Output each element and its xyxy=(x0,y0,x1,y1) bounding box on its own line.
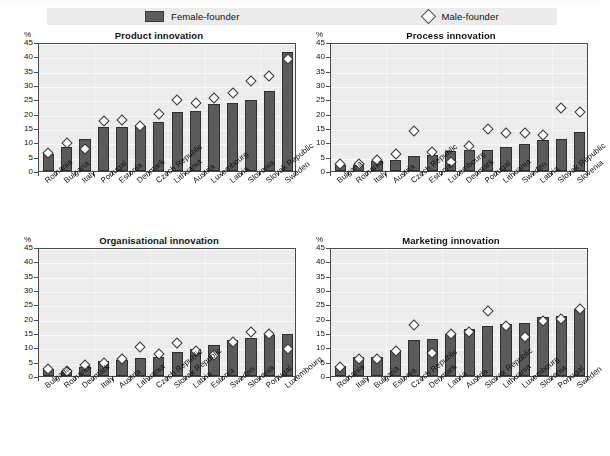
x-axis-labels: BulgariaRomaniaDenmarkItalyAustriaLithua… xyxy=(38,381,318,441)
y-tick-label: 5 xyxy=(29,359,33,367)
gridline-vertical xyxy=(94,44,95,171)
diamond-marker-slovak-republic xyxy=(482,306,493,317)
panel-title-process-innovation: Process innovation xyxy=(306,30,596,41)
gridline-vertical xyxy=(552,44,553,171)
gridline-vertical xyxy=(497,249,498,376)
y-axis: 051015202530354045 xyxy=(14,43,36,172)
panel-title-product-innovation: Product innovation xyxy=(14,30,304,41)
chart-panel-organisational-innovation: %Organisational innovation05101520253035… xyxy=(14,235,304,443)
y-tick-label: 45 xyxy=(24,244,33,252)
gridline-horizontal xyxy=(331,116,587,117)
gridline-horizontal xyxy=(331,278,587,279)
y-tick-label: 10 xyxy=(24,139,33,147)
y-tick-label: 35 xyxy=(24,68,33,76)
gridline-horizontal xyxy=(331,87,587,88)
y-tick-label: 45 xyxy=(316,39,325,47)
plot-area-organisational-innovation xyxy=(38,248,296,377)
gridline-vertical xyxy=(260,249,261,376)
chart-panel-process-innovation: %Process innovation051015202530354045Bul… xyxy=(306,30,596,238)
scan-artifact-strip xyxy=(0,0,604,4)
y-tick-label: 0 xyxy=(321,168,325,176)
bar-slovenia xyxy=(245,100,256,171)
diamond-marker-lithuania xyxy=(135,342,146,353)
panel-title-organisational-innovation: Organisational innovation xyxy=(14,235,304,246)
gridline-vertical xyxy=(205,44,206,171)
y-tick-label: 15 xyxy=(24,330,33,338)
gridline-horizontal xyxy=(331,73,587,74)
gridline-horizontal xyxy=(39,321,295,322)
y-tick-label: 30 xyxy=(316,82,325,90)
gridline-horizontal xyxy=(331,263,587,264)
gridline-vertical xyxy=(94,249,95,376)
gridline-horizontal xyxy=(39,292,295,293)
gridline-horizontal xyxy=(39,278,295,279)
y-tick-label: 20 xyxy=(316,316,325,324)
y-axis: 051015202530354045 xyxy=(306,248,328,377)
y-tick-label: 40 xyxy=(24,258,33,266)
y-tick-label: 10 xyxy=(24,344,33,352)
gridline-horizontal xyxy=(39,249,295,250)
y-tick-label: 35 xyxy=(316,273,325,281)
diamond-marker-lithuania xyxy=(172,94,183,105)
y-tick-label: 30 xyxy=(316,287,325,295)
chart-panel-marketing-innovation: %Marketing innovation051015202530354045R… xyxy=(306,235,596,443)
gridline-horizontal xyxy=(331,44,587,45)
diamond-marker-slovenia xyxy=(245,327,256,338)
y-tick-label: 0 xyxy=(29,168,33,176)
gridline-horizontal xyxy=(39,335,295,336)
bar-swatch-icon xyxy=(145,11,164,22)
plot-area-product-innovation xyxy=(38,43,296,172)
gridline-vertical xyxy=(150,44,151,171)
gridline-horizontal xyxy=(39,44,295,45)
diamond-marker-icon xyxy=(421,9,437,25)
gridline-horizontal xyxy=(39,263,295,264)
y-tick-label: 45 xyxy=(316,244,325,252)
diamond-marker-austria xyxy=(190,97,201,108)
diamond-marker-slovak-republic xyxy=(172,337,183,348)
legend-label-male-founder: Male-founder xyxy=(441,11,498,22)
y-tick-label: 40 xyxy=(24,53,33,61)
gridline-horizontal xyxy=(39,306,295,307)
y-tick-label: 40 xyxy=(316,53,325,61)
y-tick-label: 15 xyxy=(316,330,325,338)
y-tick-label: 10 xyxy=(316,139,325,147)
y-tick-label: 15 xyxy=(24,125,33,133)
legend-label-female-founder: Female-founder xyxy=(171,11,239,22)
plot-background xyxy=(38,248,296,377)
y-tick-label: 35 xyxy=(316,68,325,76)
diamond-marker-portugal xyxy=(482,123,493,134)
gridline-vertical xyxy=(150,249,151,376)
gridline-horizontal xyxy=(331,292,587,293)
y-tick-label: 25 xyxy=(316,96,325,104)
y-tick-label: 25 xyxy=(316,301,325,309)
y-tick-label: 5 xyxy=(321,154,325,162)
y-axis: 051015202530354045 xyxy=(14,248,36,377)
plot-area-process-innovation xyxy=(330,43,588,172)
gridline-horizontal xyxy=(331,306,587,307)
x-axis-labels: RomaniaItalyBulgariaEstoniaCzech Republi… xyxy=(330,381,610,441)
gridline-horizontal xyxy=(331,101,587,102)
gridline-vertical xyxy=(260,44,261,171)
y-tick-label: 35 xyxy=(24,273,33,281)
y-tick-label: 20 xyxy=(24,316,33,324)
diamond-marker-czech-republic xyxy=(153,108,164,119)
gridline-vertical xyxy=(386,44,387,171)
diamond-marker-latvia xyxy=(227,87,238,98)
legend-item-female-founder: Female-founder xyxy=(145,11,239,22)
y-tick-label: 25 xyxy=(24,96,33,104)
x-axis-labels: BulgariaRomaniaItalyAustriaCzech Republi… xyxy=(330,176,610,236)
bar-sweden xyxy=(282,52,293,171)
y-tick-label: 25 xyxy=(24,301,33,309)
gridline-horizontal xyxy=(39,58,295,59)
diamond-marker-slovenia xyxy=(245,75,256,86)
gridline-horizontal xyxy=(331,130,587,131)
gridline-horizontal xyxy=(39,73,295,74)
y-tick-label: 0 xyxy=(29,373,33,381)
y-tick-label: 30 xyxy=(24,287,33,295)
diamond-marker-slovak-republic xyxy=(556,102,567,113)
y-tick-label: 20 xyxy=(24,111,33,119)
y-tick-label: 5 xyxy=(29,154,33,162)
gridline-horizontal xyxy=(331,58,587,59)
y-tick-label: 30 xyxy=(24,82,33,90)
chart-panel-product-innovation: %Product innovation051015202530354045Rom… xyxy=(14,30,304,238)
